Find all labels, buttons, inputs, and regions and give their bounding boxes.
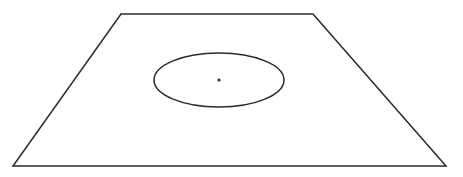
plane-trapezoid (13, 14, 446, 166)
center-point (217, 78, 220, 81)
plane-diagram (0, 0, 463, 177)
